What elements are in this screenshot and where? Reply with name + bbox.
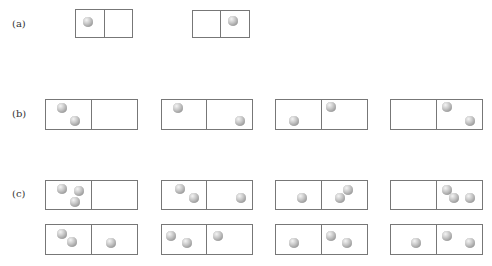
particle-sphere-icon <box>74 186 84 196</box>
particle-sphere-icon <box>297 193 307 203</box>
partition-divider <box>91 100 92 129</box>
particle-sphere-icon <box>166 231 176 241</box>
particle-sphere-icon <box>83 17 93 27</box>
particle-sphere-icon <box>70 116 80 126</box>
partition-divider <box>206 100 207 129</box>
particle-sphere-icon <box>213 231 223 241</box>
particle-sphere-icon <box>173 103 183 113</box>
container-box-b-4 <box>390 99 483 130</box>
particle-sphere-icon <box>335 193 345 203</box>
partition-divider <box>206 225 207 254</box>
container-box-c-7 <box>275 224 368 255</box>
container-box-c-1 <box>45 180 138 210</box>
partition-divider <box>436 100 437 129</box>
particle-sphere-icon <box>465 193 475 203</box>
particle-sphere-icon <box>57 229 67 239</box>
particle-sphere-icon <box>342 238 352 248</box>
partition-divider <box>321 181 322 209</box>
partition-divider <box>321 225 322 254</box>
partition-divider <box>436 225 437 254</box>
container-box-c-6 <box>161 224 253 255</box>
row-label-c: (c) <box>12 188 25 200</box>
container-box-c-8 <box>390 224 483 255</box>
partition-divider <box>436 181 437 209</box>
partition-divider <box>321 100 322 129</box>
particle-sphere-icon <box>465 116 475 126</box>
particle-sphere-icon <box>70 197 80 207</box>
particle-sphere-icon <box>442 102 452 112</box>
container-box-b-3 <box>275 99 368 130</box>
container-box-c-5 <box>45 224 138 255</box>
particle-sphere-icon <box>343 185 353 195</box>
container-box-c-4 <box>390 180 483 210</box>
partition-divider <box>104 10 105 37</box>
particle-sphere-icon <box>326 102 336 112</box>
partition-divider <box>91 181 92 209</box>
particle-sphere-icon <box>106 238 116 248</box>
particle-sphere-icon <box>182 238 192 248</box>
partition-divider <box>206 181 207 209</box>
particle-sphere-icon <box>236 193 246 203</box>
partition-divider <box>220 11 221 37</box>
container-box-b-2 <box>161 99 253 130</box>
particle-sphere-icon <box>57 103 67 113</box>
container-box-a-2 <box>192 10 250 38</box>
particle-sphere-icon <box>289 238 299 248</box>
particle-sphere-icon <box>411 238 421 248</box>
particle-sphere-icon <box>442 231 452 241</box>
particle-sphere-icon <box>289 116 299 126</box>
particle-sphere-icon <box>189 193 199 203</box>
particle-sphere-icon <box>235 116 245 126</box>
container-box-b-1 <box>45 99 138 130</box>
container-box-a-1 <box>75 9 133 38</box>
particle-sphere-icon <box>228 16 238 26</box>
row-label-b: (b) <box>12 108 26 120</box>
particle-sphere-icon <box>67 237 77 247</box>
container-box-c-3 <box>275 180 368 210</box>
partition-divider <box>91 225 92 254</box>
particle-sphere-icon <box>465 238 475 248</box>
particle-sphere-icon <box>449 193 459 203</box>
row-label-a: (a) <box>12 18 26 30</box>
particle-sphere-icon <box>175 184 185 194</box>
particle-sphere-icon <box>57 184 67 194</box>
container-box-c-2 <box>161 180 253 210</box>
particle-sphere-icon <box>326 231 336 241</box>
